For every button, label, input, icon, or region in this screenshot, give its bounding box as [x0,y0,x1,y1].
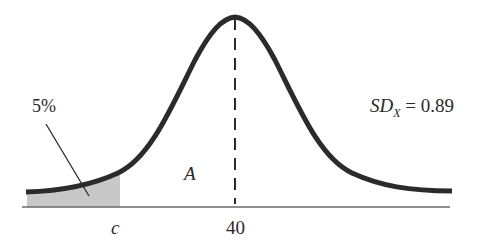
sd-prefix: SD [370,95,394,116]
tail-leader-line [46,124,89,196]
tick-label-c: c [111,217,120,238]
sd-value: = 0.89 [401,95,454,116]
normal-distribution-figure: 5% A SDX = 0.89 c 40 [0,0,481,243]
tail-percent-label: 5% [32,96,56,116]
sd-label: SDX = 0.89 [370,95,454,120]
region-a-label: A [182,163,196,184]
tick-label-mean: 40 [226,217,245,238]
